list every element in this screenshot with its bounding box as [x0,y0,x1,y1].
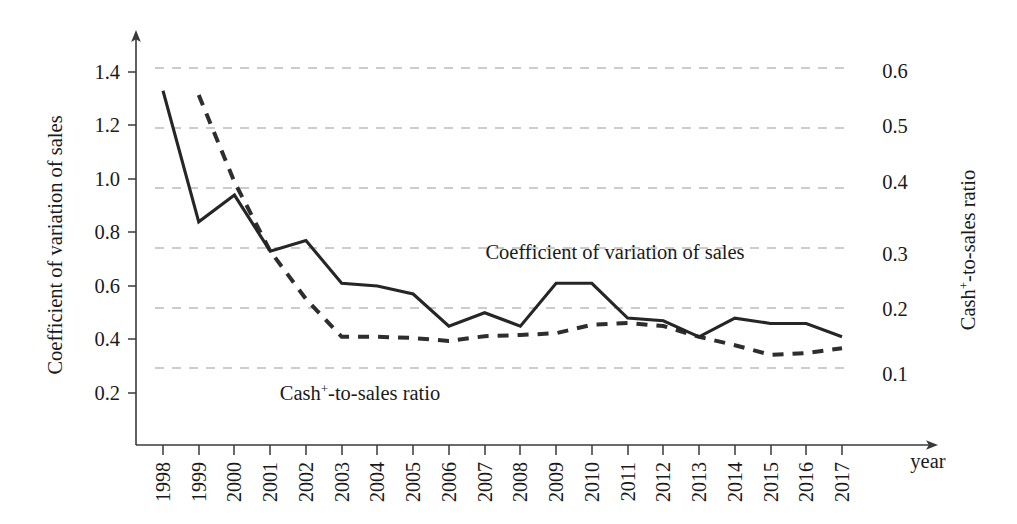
chart-svg: 1.4 1.2 1.0 0.8 0.6 0.4 0.2 Coefficient … [0,0,1017,524]
y-axis-left-title: Coefficient of variation of sales [44,115,66,374]
chart-figure: 1.4 1.2 1.0 0.8 0.6 0.4 0.2 Coefficient … [0,0,1017,524]
annot-cash-suffix: -to-sales ratio [328,382,440,404]
x-tick-label-2016: 2016 [795,462,817,502]
annotation-cash-to-sales-ratio-text: Cash+-to-sales ratio [280,381,440,404]
x-tick-label-1998: 1998 [152,462,174,502]
x-tick-label-2012: 2012 [652,462,674,502]
x-tick-label-2010: 2010 [581,462,603,502]
x-tick-label-2006: 2006 [438,462,460,502]
x-tick-label-2003: 2003 [331,462,353,502]
y2-tick-label-2: 0.3 [882,243,908,265]
y-axis-right-title-text: Cash+-to-sales ratio [956,170,979,330]
x-tick-label-2005: 2005 [402,462,424,502]
series-line-cash-to-sales-ratio [199,95,842,355]
x-tick-label-2008: 2008 [509,462,531,502]
y-tick-label-6: 1.4 [94,61,120,83]
cash-plus-superscript: + [956,282,971,289]
y-axis-right-title: Cash+-to-sales ratio [956,170,979,330]
y-tick-label-5: 1.2 [94,114,120,136]
x-tick-label-2014: 2014 [724,462,746,502]
y-axis-right-tick-labels: 0.6 0.5 0.4 0.3 0.2 0.1 [882,60,908,385]
x-tick-label-2017: 2017 [831,462,853,502]
annotation-cash-to-sales-ratio: Cash+-to-sales ratio [280,381,440,404]
y2-tick-label-1: 0.2 [882,298,908,320]
x-axis-title: year [910,450,945,473]
annotation-coefficient-of-variation: Coefficient of variation of sales [485,241,744,263]
y-tick-label-0: 0.2 [94,382,120,404]
y2-tick-label-5: 0.6 [882,60,908,82]
x-axis-tick-labels: 1998 1999 2000 2001 2002 2003 2004 2005 … [152,462,853,502]
x-tick-label-2002: 2002 [295,462,317,502]
x-tick-label-2015: 2015 [760,462,782,502]
x-tick-label-2013: 2013 [688,462,710,502]
x-tick-label-2000: 2000 [223,462,245,502]
x-tick-label-2009: 2009 [545,462,567,502]
y-axis-left [128,30,141,445]
cash-suffix: -to-sales ratio [957,170,979,282]
y2-tick-label-4: 0.5 [882,115,908,137]
x-tick-label-2011: 2011 [617,462,639,501]
gridlines [155,68,850,368]
y-tick-label-2: 0.6 [94,275,120,297]
x-tick-label-2004: 2004 [366,462,388,502]
y-tick-label-3: 0.8 [94,221,120,243]
annot-cash-prefix: Cash [280,382,321,404]
x-axis [136,440,938,455]
x-tick-label-1999: 1999 [188,462,210,502]
y2-tick-label-3: 0.4 [882,171,908,193]
y2-tick-label-0: 0.1 [882,363,908,385]
x-tick-label-2007: 2007 [474,462,496,502]
y-tick-label-4: 1.0 [94,168,120,190]
annot-cash-plus-superscript: + [321,381,328,396]
x-ticks [163,445,842,455]
y-axis-left-tick-labels: 1.4 1.2 1.0 0.8 0.6 0.4 0.2 [94,61,120,404]
cash-prefix: Cash [957,289,979,330]
y-tick-label-1: 0.4 [94,328,120,350]
x-tick-label-2001: 2001 [259,462,281,502]
